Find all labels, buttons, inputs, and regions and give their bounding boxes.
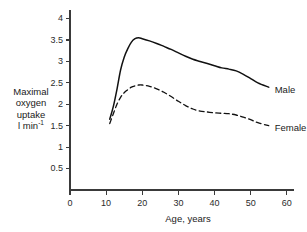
x-tick-label-10: 10 [101, 198, 111, 208]
series-line-female [110, 85, 269, 126]
series-labels-group: MaleFemale [275, 84, 307, 134]
chart-figure: 0.511.522.533.54 0102030405060 MaleFemal… [0, 0, 307, 232]
x-tick-label-60: 60 [282, 198, 292, 208]
series-label-male: Male [275, 84, 296, 95]
x-tick-label-20: 20 [137, 198, 147, 208]
x-tick-label-30: 30 [173, 198, 183, 208]
y-tick-label-1: 1 [58, 142, 63, 152]
x-axis-ticks: 0102030405060 [67, 190, 291, 208]
series-line-male [110, 38, 269, 119]
data-series-group [110, 38, 269, 126]
series-label-female: Female [275, 122, 307, 133]
x-tick-label-0: 0 [67, 198, 72, 208]
y-tick-label-3: 3 [58, 56, 63, 66]
x-tick-label-50: 50 [246, 198, 256, 208]
y-axis-title-line-3: uptake [2, 109, 60, 120]
y-axis-title: Maximal oxygen uptake l min-1 [2, 86, 60, 132]
y-tick-label-4: 4 [58, 13, 63, 23]
x-tick-label-40: 40 [210, 198, 220, 208]
y-axis-unit-exponent: -1 [38, 119, 44, 126]
y-axis-unit-text: l min [18, 120, 38, 131]
y-axis-title-line-1: Maximal [2, 86, 60, 97]
x-axis-title: Age, years [165, 213, 211, 224]
y-tick-label-3.5: 3.5 [50, 35, 63, 45]
y-tick-label-0.5: 0.5 [50, 163, 63, 173]
y-axis-title-line-2: oxygen [2, 97, 60, 108]
y-axis-unit: l min-1 [2, 120, 60, 131]
